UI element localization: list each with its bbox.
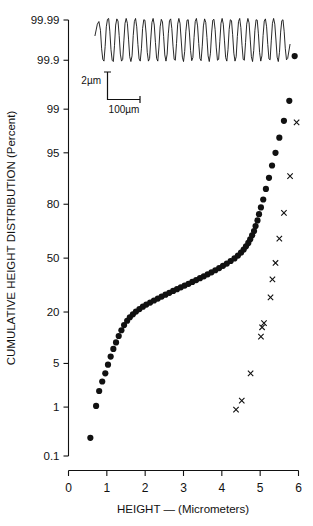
data-point-dot — [96, 388, 102, 394]
y-tick-label-50: 50 — [47, 252, 60, 264]
data-point-cross — [239, 398, 244, 403]
data-point-dot — [105, 362, 111, 368]
y-tick-label-0.1: 0.1 — [44, 450, 60, 462]
data-point-dot — [110, 346, 116, 352]
data-point-dot — [87, 435, 93, 441]
x-tick-label-1: 1 — [103, 481, 110, 495]
data-point-cross — [294, 120, 299, 125]
surface-profile-trace — [95, 18, 290, 61]
cumulative-height-distribution-chart: 0.115205080959999.999.99 CUMULATIVE HEIG… — [0, 0, 313, 526]
x-tick-label-6: 6 — [295, 481, 302, 495]
scale-bar: 2µm 100µm — [81, 72, 140, 115]
y-tick-label-99: 99 — [47, 103, 60, 115]
y-axis: 0.115205080959999.999.99 CUMULATIVE HEIG… — [5, 14, 69, 462]
x-tick-label-4: 4 — [218, 481, 225, 495]
y-tick-label-group: 0.115205080959999.999.99 — [31, 14, 60, 462]
data-point-dot — [252, 223, 258, 229]
x-tick-label-0: 0 — [65, 481, 72, 495]
data-point-cross — [270, 277, 275, 282]
scale-bar-vertical-label: 2µm — [81, 75, 101, 86]
y-tick-label-20: 20 — [47, 306, 60, 318]
x-tick-group — [69, 471, 299, 477]
data-point-dot — [272, 150, 278, 156]
data-point-cross — [273, 260, 278, 265]
figure-container: 0.115205080959999.999.99 CUMULATIVE HEIG… — [0, 0, 313, 526]
y-tick-label-5: 5 — [53, 357, 59, 369]
data-point-dot — [286, 98, 292, 104]
data-point-dot — [258, 204, 264, 210]
data-point-dot — [102, 370, 108, 376]
x-axis: 0123456 HEIGHT — (Micrometers) — [65, 471, 302, 516]
data-point-dot — [269, 162, 275, 168]
series-secondary-distribution — [233, 120, 299, 413]
data-point-cross — [248, 371, 253, 376]
data-point-dot — [108, 354, 114, 360]
data-point-dot — [116, 333, 122, 339]
data-point-cross — [287, 173, 292, 178]
data-point-dot — [292, 53, 298, 59]
data-point-dot — [254, 217, 260, 223]
data-point-dot — [263, 186, 269, 192]
x-axis-title: HEIGHT — (Micrometers) — [117, 503, 249, 515]
data-point-dot — [99, 378, 105, 384]
y-axis-title: CUMULATIVE HEIGHT DISTRIBUTION (Percent) — [5, 111, 17, 366]
inset-surface-profile: 2µm 100µm — [81, 18, 290, 115]
data-point-dot — [113, 339, 119, 345]
y-tick-label-1: 1 — [53, 401, 59, 413]
y-tick-label-95: 95 — [47, 147, 60, 159]
x-tick-label-2: 2 — [142, 481, 149, 495]
data-point-cross — [281, 210, 286, 215]
data-point-dot — [276, 135, 282, 141]
data-point-dot — [256, 211, 262, 217]
x-tick-label-group: 0123456 — [65, 481, 302, 495]
data-point-cross — [233, 407, 238, 412]
y-tick-label-99.9: 99.9 — [37, 54, 59, 66]
y-tick-group — [64, 20, 69, 456]
data-point-dot — [266, 175, 272, 181]
data-point-cross — [258, 334, 263, 339]
data-point-cross — [268, 295, 273, 300]
y-tick-label-99.99: 99.99 — [31, 14, 60, 26]
scale-bar-horizontal-label: 100µm — [109, 104, 140, 115]
x-tick-label-5: 5 — [257, 481, 264, 495]
data-point-cross — [277, 236, 282, 241]
data-point-dot — [260, 196, 266, 202]
x-tick-label-3: 3 — [180, 481, 187, 495]
data-point-dot — [93, 403, 99, 409]
data-point-dot — [281, 118, 287, 124]
y-tick-label-80: 80 — [47, 198, 60, 210]
scale-bar-path — [104, 72, 140, 103]
